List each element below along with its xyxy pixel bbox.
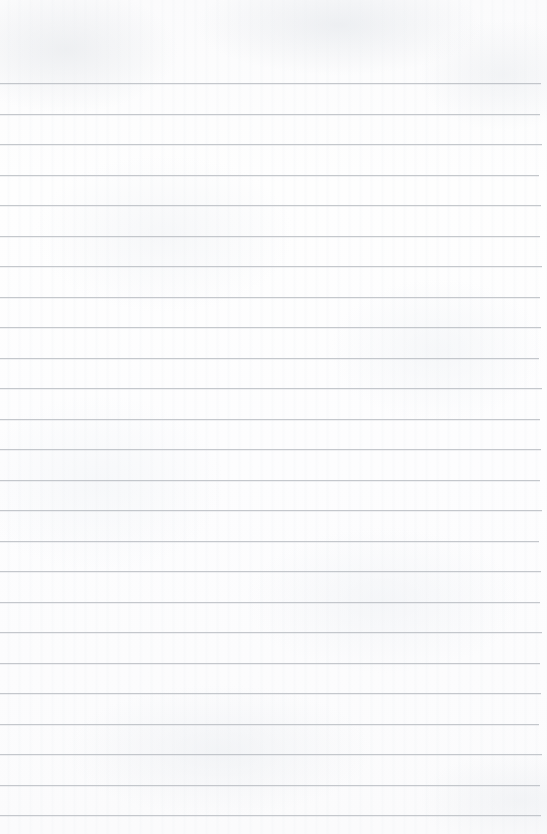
writing-area[interactable] bbox=[0, 0, 547, 834]
notebook-page bbox=[0, 0, 547, 834]
